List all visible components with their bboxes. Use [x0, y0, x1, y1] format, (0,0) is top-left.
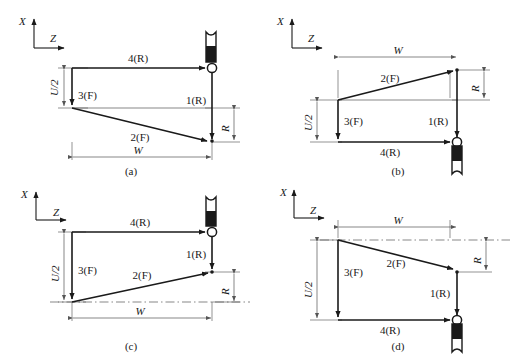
- dimension-label-w-b: W: [393, 44, 403, 56]
- segment-label-1r-d: 1(R): [430, 287, 451, 300]
- dimension-w-a: W: [73, 144, 211, 157]
- panel-c-drawing: X Z: [0, 180, 262, 357]
- segment-label-4r-d: 4(R): [380, 324, 401, 337]
- axis-indicator-a: X Z: [18, 15, 64, 48]
- axis-label-x-b: X: [276, 15, 285, 27]
- axis-label-z-a: Z: [50, 32, 57, 44]
- dimension-label-r-d: R: [471, 257, 483, 265]
- segment-label-1r-c: 1(R): [186, 248, 207, 261]
- endpoint-dot-d: [455, 270, 459, 274]
- endpoint-dot-b: [455, 68, 459, 72]
- segment-label-4r-b: 4(R): [380, 146, 401, 159]
- dimension-w-d: W: [339, 214, 456, 227]
- cutting-tool-icon-b: [452, 146, 462, 174]
- panel-caption-d: (d): [392, 340, 405, 353]
- axis-indicator-d: X Z: [279, 186, 324, 218]
- axis-label-x-d: X: [279, 186, 288, 198]
- toolpath-d: [338, 240, 462, 325]
- dimension-r-a: R: [219, 110, 234, 140]
- cutting-tool-icon-d: [452, 324, 462, 352]
- segment-label-4r-c: 4(R): [130, 216, 151, 229]
- segment-label-2f-a: 2(F): [131, 131, 150, 144]
- dimension-u2-c: U/2: [49, 234, 64, 300]
- panel-caption-a: (a): [125, 165, 138, 178]
- reference-lines-b: [310, 70, 490, 142]
- panel-b-drawing: X Z: [262, 0, 525, 180]
- segment-label-2f-d: 2(F): [387, 257, 406, 270]
- axis-label-z-b: Z: [308, 32, 315, 44]
- cutting-tool-icon-c: [206, 197, 216, 226]
- segment-label-1r-a: 1(R): [186, 94, 207, 107]
- segment-label-4r-a: 4(R): [128, 52, 149, 65]
- segment-label-3f-b: 3(F): [344, 115, 363, 128]
- dimension-u2-a: U/2: [48, 70, 64, 106]
- dimension-w-c: W: [73, 305, 211, 318]
- panel-caption-b: (b): [392, 165, 405, 178]
- dimension-u2-d: U/2: [302, 242, 317, 318]
- cutting-tool-icon-a: [206, 32, 216, 62]
- reference-lines-d: [310, 220, 510, 320]
- toolpath-b: [338, 68, 462, 146]
- panel-caption-c: (c): [125, 340, 138, 353]
- dimension-label-r-a: R: [219, 125, 231, 133]
- endpoint-dot-a: [210, 139, 214, 143]
- tool-node-b: [452, 137, 461, 146]
- tool-node-d: [452, 315, 461, 324]
- panel-d: X Z: [262, 180, 525, 357]
- figure-container: X Z: [0, 0, 525, 357]
- dimension-label-u2-c: U/2: [49, 265, 61, 282]
- panel-d-drawing: X Z: [262, 180, 525, 357]
- tool-node-c: [207, 227, 216, 236]
- dimension-label-u2-a: U/2: [48, 79, 60, 96]
- dimension-r-d: R: [471, 242, 486, 270]
- dimension-u2-b: U/2: [302, 102, 317, 140]
- dimension-r-b: R: [469, 72, 484, 98]
- axis-indicator-b: X Z: [276, 15, 322, 48]
- dimension-label-w-d: W: [393, 214, 403, 226]
- segment-label-1r-b: 1(R): [428, 115, 449, 128]
- axis-label-x-a: X: [18, 15, 27, 27]
- segment-label-2f-b: 2(F): [381, 72, 400, 85]
- segment-label-3f-d: 3(F): [344, 266, 363, 279]
- dimension-label-r-c: R: [219, 288, 231, 296]
- dimension-label-r-b: R: [469, 85, 481, 93]
- panel-b: X Z: [262, 0, 525, 180]
- dimension-r-c: R: [219, 274, 234, 301]
- dimension-label-w-c: W: [135, 305, 145, 317]
- endpoint-dot-c: [210, 270, 214, 274]
- panel-a-drawing: X Z: [0, 0, 262, 180]
- axis-indicator-c: X Z: [20, 188, 66, 220]
- dimension-label-u2-b: U/2: [302, 114, 314, 131]
- axis-label-z-c: Z: [53, 206, 60, 218]
- axis-label-z-d: Z: [310, 204, 317, 216]
- segment-label-2f-c: 2(F): [133, 269, 152, 282]
- dimension-label-u2-d: U/2: [302, 281, 314, 298]
- panel-a: X Z: [0, 0, 262, 180]
- axis-label-x-c: X: [20, 188, 29, 200]
- tool-node-a: [207, 63, 216, 72]
- segment-label-3f-a: 3(F): [78, 89, 97, 102]
- dimension-label-w-a: W: [133, 144, 143, 156]
- dimension-w-b: W: [339, 44, 456, 57]
- segment-label-3f-c: 3(F): [78, 264, 97, 277]
- panel-c: X Z: [0, 180, 262, 357]
